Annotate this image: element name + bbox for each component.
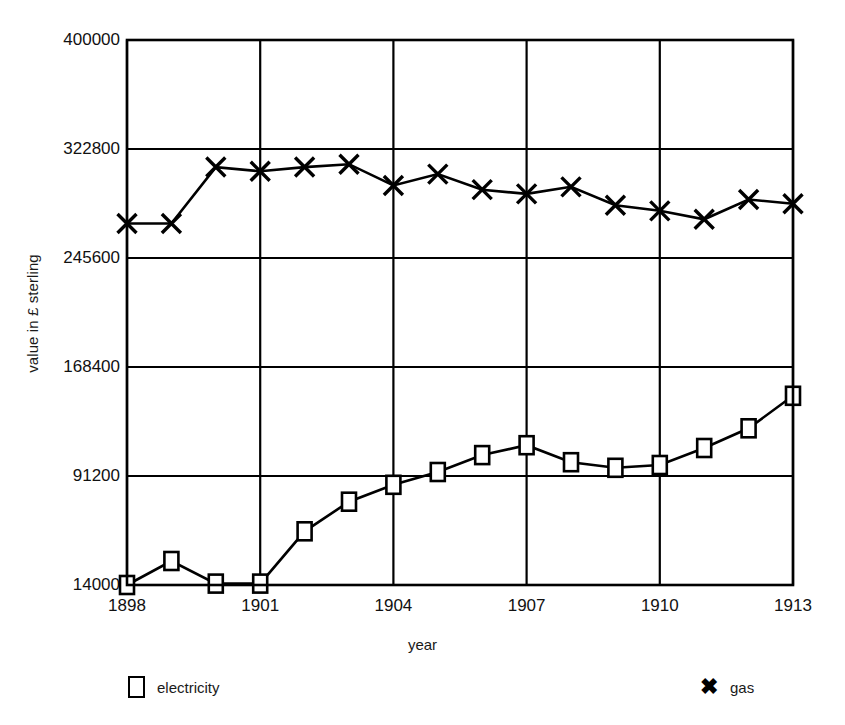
data-point-marker-electricity xyxy=(653,456,667,474)
data-point-marker-gas xyxy=(428,165,447,184)
data-point-marker-electricity xyxy=(608,459,622,477)
data-point-marker-electricity xyxy=(475,446,489,464)
series-line-gas xyxy=(127,164,793,223)
plot-area xyxy=(0,0,845,725)
data-point-marker-electricity xyxy=(697,439,711,457)
legend-item-electricity: electricity xyxy=(128,676,220,698)
x-marker-icon: ✖ xyxy=(700,676,718,698)
square-marker-icon xyxy=(128,676,145,698)
data-point-marker-electricity xyxy=(564,453,578,471)
line-chart: value in £ sterling 14000912001684002456… xyxy=(0,0,845,725)
legend-label-gas: gas xyxy=(730,679,754,696)
data-point-marker-electricity xyxy=(742,419,756,437)
data-point-marker-electricity xyxy=(520,436,534,454)
data-point-marker-electricity xyxy=(164,552,178,570)
plot-frame xyxy=(127,40,793,585)
series-line-electricity xyxy=(127,396,793,585)
data-point-marker-electricity xyxy=(209,575,223,593)
legend-item-gas: ✖ gas xyxy=(700,676,754,698)
legend-label-electricity: electricity xyxy=(157,679,220,696)
chart-legend: electricity ✖ gas xyxy=(0,672,845,712)
data-point-marker-electricity xyxy=(342,493,356,511)
data-point-marker-electricity xyxy=(386,476,400,494)
data-point-marker-electricity xyxy=(431,463,445,481)
data-point-marker-electricity xyxy=(298,522,312,540)
data-point-marker-electricity xyxy=(253,575,267,593)
